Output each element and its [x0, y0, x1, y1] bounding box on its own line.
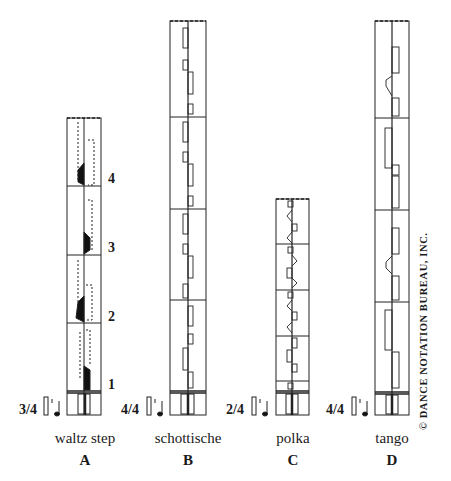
panel-name-b: schottische	[138, 430, 238, 447]
staff-waltz-step	[67, 118, 101, 415]
panel-letter-a: A	[65, 452, 105, 469]
copyright-notice: © DANCE NOTATION BUREAU, INC.	[418, 232, 429, 430]
staff-polka	[276, 199, 309, 415]
meter-label-d: 4/4	[326, 402, 344, 418]
meter-label-a: 3/4	[19, 402, 37, 418]
panel-letter-b: B	[168, 452, 208, 469]
staff-tango	[375, 21, 409, 415]
measure-number: 4	[108, 171, 115, 187]
panel-letter-c: C	[273, 452, 313, 469]
measure-number: 2	[108, 309, 115, 325]
panel-name-d: tango	[342, 430, 442, 447]
panel-name-a: waltz step	[35, 430, 135, 447]
meter-label-b: 4/4	[121, 402, 139, 418]
tempo-indicator-d	[352, 397, 368, 416]
meter-label-c: 2/4	[226, 402, 244, 418]
staff-schottische	[170, 21, 206, 415]
panel-letter-d: D	[372, 452, 412, 469]
measure-number: 1	[108, 377, 115, 393]
measure-number: 3	[108, 240, 115, 256]
tempo-indicator-a	[44, 397, 60, 416]
tempo-indicator-c	[252, 397, 268, 416]
tempo-indicator-b	[147, 397, 163, 416]
panel-name-c: polka	[243, 430, 343, 447]
